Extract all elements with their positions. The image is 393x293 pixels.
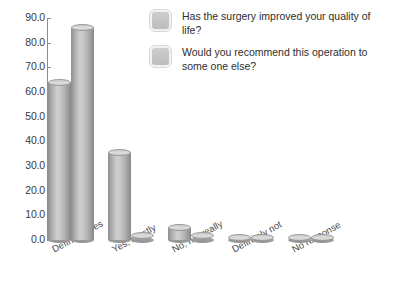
bar-cap xyxy=(191,232,214,239)
bar-body xyxy=(108,152,131,240)
y-axis-tick-label: 50.0 xyxy=(25,110,45,122)
y-axis-tick-label: 40.0 xyxy=(25,134,45,146)
legend-item[interactable]: Would you recommend this operation to so… xyxy=(150,46,390,73)
bar-body xyxy=(48,82,71,240)
legend-swatch-icon xyxy=(150,46,171,67)
legend-item-label: Would you recommend this operation to so… xyxy=(182,46,387,73)
y-axis-tick-label: 30.0 xyxy=(25,159,45,171)
y-axis-tick-label: 20.0 xyxy=(25,184,45,196)
y-axis-tick-label: 70.0 xyxy=(25,60,45,72)
legend-item-label: Has the surgery improved your quality of… xyxy=(182,10,387,37)
legend-item[interactable]: Has the surgery improved your quality of… xyxy=(150,10,390,37)
y-axis-tick-label: 10.0 xyxy=(25,208,45,220)
bar-cap xyxy=(251,234,274,241)
y-axis-tick-label: 60.0 xyxy=(25,85,45,97)
bar-cap xyxy=(228,234,251,241)
bar-chart: 90.080.070.060.050.040.030.020.010.00.0 … xyxy=(0,0,393,293)
chart-legend: Has the surgery improved your quality of… xyxy=(150,10,390,82)
y-axis-tick-label: 90.0 xyxy=(25,11,45,23)
y-axis-tick-label: 80.0 xyxy=(25,36,45,48)
bar-group xyxy=(48,18,94,240)
bar-cap xyxy=(311,234,334,241)
bar-body xyxy=(71,28,94,240)
bar-group xyxy=(108,18,154,240)
bar-cap xyxy=(108,149,131,156)
legend-swatch-icon xyxy=(150,10,171,31)
bar-cap xyxy=(131,232,154,239)
bar-cap xyxy=(48,79,71,86)
y-axis-tick-label: 0.0 xyxy=(31,233,45,245)
bar-cap xyxy=(288,234,311,241)
